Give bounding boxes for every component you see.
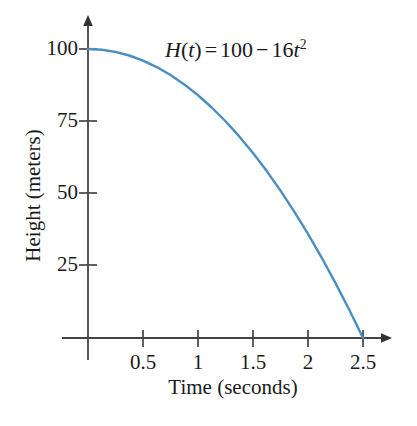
equation-equals: = xyxy=(202,37,220,62)
equation-minus: − xyxy=(253,37,271,62)
x-tick-label-2: 2 xyxy=(278,352,338,373)
x-tick-label-2.5: 2.5 xyxy=(333,352,393,373)
equation-paren-close: ) xyxy=(194,37,201,62)
y-tick-label-100: 100 xyxy=(26,38,78,59)
x-tick-label-1.5: 1.5 xyxy=(223,352,283,373)
x-axis-title: Time (seconds) xyxy=(88,377,378,398)
x-axis-arrowhead xyxy=(381,333,392,343)
y-axis-arrowhead xyxy=(83,15,93,26)
y-axis-title: Height (meters) xyxy=(23,76,44,316)
x-tick-label-1: 1 xyxy=(168,352,228,373)
x-tick-label-0.5: 0.5 xyxy=(113,352,173,373)
equation-exponent: 2 xyxy=(300,37,307,52)
equation-function-name: H xyxy=(165,37,181,62)
data-series-curve xyxy=(88,49,363,338)
equation-coefficient: 16 xyxy=(272,37,294,62)
equation-annotation: H(t)=100−16t2 xyxy=(165,38,306,61)
equation-constant: 100 xyxy=(220,37,253,62)
chart-figure: 100 75 50 25 0.5 1 1.5 2 2.5 Time (secon… xyxy=(0,0,417,426)
